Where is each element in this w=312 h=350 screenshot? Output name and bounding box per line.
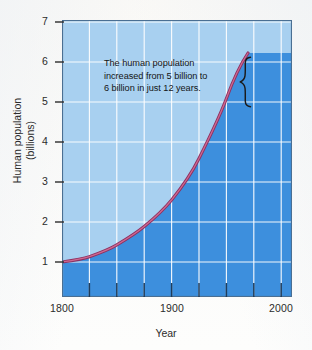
x-tick-label-1900: 1900 [152, 303, 192, 314]
x-tick-label-1800: 1800 [42, 303, 82, 314]
x-axis-title: Year [136, 327, 196, 339]
y-tick-label-2: 2 [34, 216, 48, 227]
x-tick-label-2000: 2000 [261, 303, 301, 314]
y-axis-title: Human population (billions) [11, 82, 36, 200]
annotation-line-1: The human population [104, 58, 194, 68]
y-axis-title-line1: Human population [11, 98, 23, 183]
y-tick-label-5: 5 [34, 96, 48, 107]
y-tick-label-4: 4 [34, 136, 48, 147]
y-tick-label-6: 6 [34, 56, 48, 67]
y-tick-label-3: 3 [34, 176, 48, 187]
annotation-line-2: increased from 5 billion to [104, 71, 207, 81]
curly-brace-icon [238, 56, 254, 108]
y-tick-label-7: 7 [34, 16, 48, 27]
chart-annotation: The human population increased from 5 bi… [104, 57, 236, 95]
y-tick-label-1: 1 [34, 256, 48, 267]
y-axis-title-line2: (billions) [23, 121, 35, 160]
y-axis-tick-marks [52, 18, 64, 300]
annotation-line-3: 6 billion in just 12 years. [104, 83, 201, 93]
chart-figure: 7 6 5 4 3 2 1 1800 1900 2000 Year Human … [0, 0, 312, 350]
